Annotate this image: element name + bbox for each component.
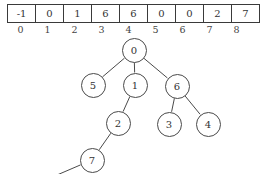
tree-edge [172, 98, 175, 112]
tree-edge [144, 58, 168, 78]
tree-edge [103, 58, 125, 77]
tree-node-3: 3 [157, 112, 182, 137]
parent-array-figure: -1 0 1 6 6 0 0 2 7 0 1 2 3 4 5 6 7 8 [7, 4, 250, 36]
figure-canvas: -1 0 1 6 6 0 0 2 7 0 1 2 3 4 5 6 7 8 [0, 0, 264, 174]
table-row: -1 0 1 6 6 0 0 2 7 [8, 5, 260, 23]
array-cell-8: 7 [232, 5, 260, 23]
tree-node-2: 2 [106, 111, 131, 136]
array-index-4: 4 [115, 24, 142, 36]
array-index-7: 7 [196, 24, 223, 36]
array-index-6: 6 [169, 24, 196, 36]
array-cell-3: 6 [92, 5, 120, 23]
array-cell-7: 2 [204, 5, 232, 23]
tree-edge [123, 96, 130, 111]
parent-array-table: -1 0 1 6 6 0 0 2 7 [7, 4, 260, 23]
tree-node-0: 0 [122, 38, 147, 63]
tree-node-6: 6 [165, 74, 190, 99]
array-index-2: 2 [61, 24, 88, 36]
array-cell-4: 6 [120, 5, 148, 23]
tree-node-5: 5 [81, 73, 106, 98]
tree-node-1: 1 [123, 73, 148, 98]
array-cell-0: -1 [8, 5, 36, 23]
tree-edge [185, 96, 200, 115]
tree-node-4: 4 [196, 112, 221, 137]
array-index-1: 1 [34, 24, 61, 36]
array-cell-2: 1 [64, 5, 92, 23]
tree-node-7: 7 [80, 148, 105, 173]
array-index-8: 8 [223, 24, 250, 36]
array-index-row: 0 1 2 3 4 5 6 7 8 [7, 24, 250, 36]
array-cell-6: 0 [176, 5, 204, 23]
array-index-3: 3 [88, 24, 115, 36]
tree-edge [99, 133, 111, 150]
array-index-0: 0 [7, 24, 34, 36]
array-cell-1: 0 [36, 5, 64, 23]
array-index-5: 5 [142, 24, 169, 36]
array-cell-5: 0 [148, 5, 176, 23]
tree-edge [22, 165, 81, 174]
